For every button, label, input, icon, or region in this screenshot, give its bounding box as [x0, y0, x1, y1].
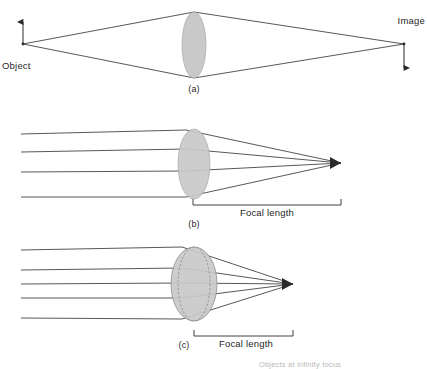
focal-length-label-b: Focal length: [240, 207, 294, 218]
focal-point-b: [330, 157, 341, 169]
panel-c-rays: [21, 247, 293, 319]
ray-a-lower: [23, 44, 404, 78]
image-arrow: [403, 43, 406, 68]
figure-canvas: Object Image (a): [0, 0, 427, 369]
focal-length-bracket-b: [193, 199, 341, 205]
focal-length-label-c: Focal length: [219, 338, 273, 349]
image-label: Image: [398, 15, 425, 26]
object-arrow: [22, 22, 25, 45]
panel-a-letter: (a): [188, 84, 200, 94]
lens-a: [182, 12, 206, 78]
panel-c-letter: (c): [178, 340, 189, 350]
optics-figure: Object Image (a): [0, 0, 427, 369]
lens-b: [178, 129, 210, 199]
panel-b: Focal length (b): [21, 129, 341, 229]
panel-a: Object Image (a): [2, 12, 425, 94]
ray-a-upper: [23, 12, 404, 44]
focal-length-bracket-c: [194, 330, 293, 336]
bottom-caption-text: Objects at infinity focus: [259, 360, 341, 369]
panel-c: Focal length (c): [21, 247, 293, 350]
bottom-caption-strip: Objects at infinity focus: [259, 360, 341, 369]
panel-a-rays: [23, 12, 404, 78]
focal-point-c: [282, 278, 293, 290]
ray-c-4: [21, 284, 293, 298]
object-label: Object: [2, 60, 31, 71]
panel-b-letter: (b): [188, 219, 200, 229]
ray-c-3: [21, 283, 293, 284]
